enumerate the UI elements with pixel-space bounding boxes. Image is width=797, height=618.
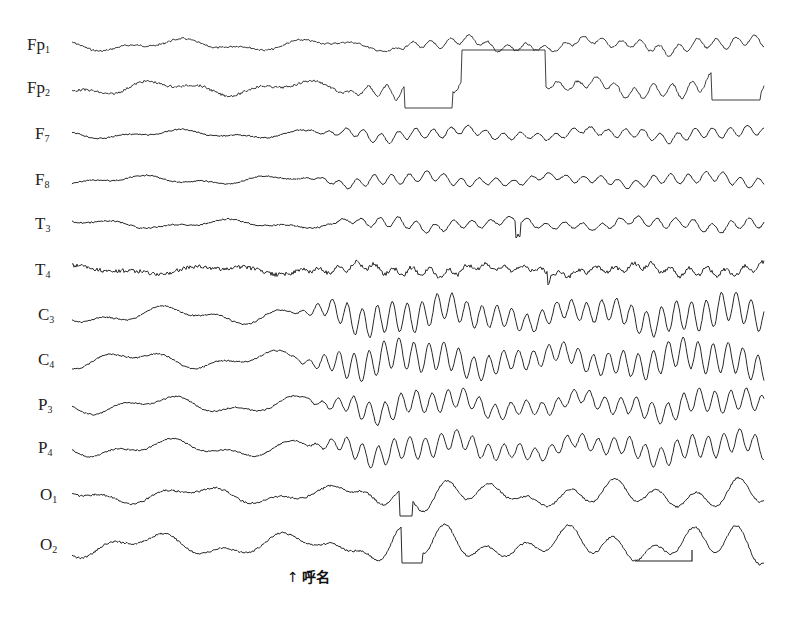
trace-p3 (72, 388, 764, 426)
eeg-traces (0, 0, 797, 618)
trace-o1 (72, 477, 764, 516)
calibration-bar (635, 550, 692, 561)
trace-t4 (72, 260, 764, 285)
stimulus-annotation: ↑呼名 (287, 566, 330, 586)
trace-o2 (72, 524, 764, 565)
trace-f7 (72, 125, 764, 144)
trace-c4 (72, 337, 764, 381)
up-arrow-icon: ↑ (287, 569, 299, 585)
trace-fp2 (72, 50, 764, 108)
trace-f8 (72, 171, 764, 189)
trace-p4 (72, 429, 764, 468)
trace-fp1 (72, 34, 764, 56)
annotation-text: 呼名 (302, 569, 330, 585)
trace-t3 (72, 216, 764, 238)
eeg-figure: Fp1Fp2F7F8T3T4C3C4P3P4O1O2 ↑呼名 (0, 0, 797, 618)
trace-c3 (72, 292, 764, 337)
